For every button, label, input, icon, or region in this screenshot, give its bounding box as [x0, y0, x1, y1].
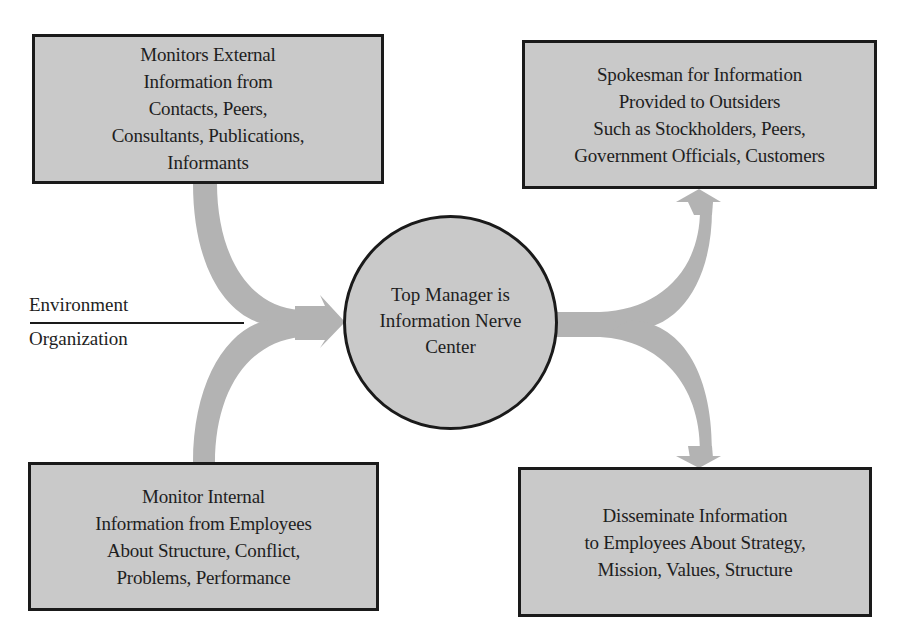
box-text-line: to Employees About Strategy, — [584, 529, 805, 556]
box-text-line: About Structure, Conflict, — [107, 537, 300, 564]
box-text-line: Mission, Values, Structure — [597, 556, 792, 583]
arrowhead-to-spokesman — [676, 189, 721, 202]
nerve-center-diagram: Environment Organization Monitors Extern… — [0, 0, 901, 638]
arrow-monitor-internal-to-center — [193, 320, 300, 463]
center-text-line: Center — [425, 334, 476, 360]
arrow-monitor-external-to-center — [193, 183, 300, 325]
environment-organization-divider — [30, 322, 244, 324]
top-manager-nerve-center: Top Manager is Information Nerve Center — [343, 215, 558, 430]
center-text-line: Information Nerve — [380, 308, 522, 334]
box-text-line: Information from — [143, 68, 272, 95]
box-text-line: Problems, Performance — [116, 564, 290, 591]
box-text-line: Information from Employees — [95, 510, 311, 537]
box-text-line: Spokesman for Information — [597, 61, 802, 88]
organization-label: Organization — [29, 328, 128, 350]
monitor-external-box: Monitors External Information from Conta… — [32, 34, 384, 184]
box-text-line: Monitor Internal — [142, 483, 265, 510]
disseminate-box: Disseminate Information to Employees Abo… — [518, 467, 872, 617]
box-text-line: Government Officials, Customers — [574, 142, 824, 169]
environment-label: Environment — [29, 294, 128, 316]
box-text-line: Contacts, Peers, — [149, 95, 268, 122]
arrow-center-to-spokesman — [600, 210, 712, 330]
arrow-center-to-disseminate — [600, 320, 712, 450]
box-text-line: Disseminate Information — [603, 502, 788, 529]
spokesman-box: Spokesman for Information Provided to Ou… — [522, 40, 877, 189]
box-text-line: Provided to Outsiders — [619, 88, 781, 115]
box-text-line: Such as Stockholders, Peers, — [593, 115, 805, 142]
box-text-line: Informants — [167, 149, 248, 176]
arrowhead-into-center — [295, 295, 345, 348]
box-text-line: Monitors External — [140, 41, 275, 68]
monitor-internal-box: Monitor Internal Information from Employ… — [28, 462, 379, 611]
center-text-line: Top Manager is — [391, 282, 510, 308]
box-text-line: Consultants, Publications, — [112, 122, 305, 149]
